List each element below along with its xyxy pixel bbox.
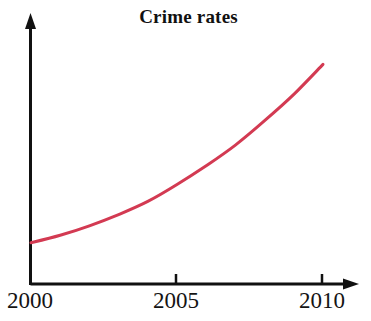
x-tick-label-2010: 2010: [299, 288, 345, 314]
crime-rate-line: [31, 64, 323, 242]
chart-figure: Crime rates 2000 2005 2010: [0, 0, 371, 321]
x-axis-arrow-icon: [343, 279, 359, 290]
chart-canvas: [0, 0, 371, 321]
y-axis-arrow-icon: [25, 13, 36, 29]
x-tick-label-2000: 2000: [7, 288, 53, 314]
x-tick-label-2005: 2005: [153, 288, 199, 314]
